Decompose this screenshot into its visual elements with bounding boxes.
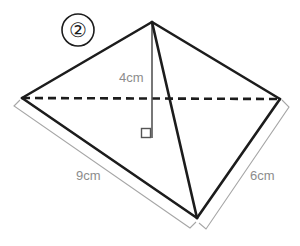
dimension-bracket-9cm bbox=[14, 100, 196, 228]
hidden-base-edge-dashed bbox=[22, 98, 280, 99]
base-dimension-label: 9cm bbox=[76, 169, 101, 183]
right-angle-marker bbox=[142, 129, 151, 138]
edge-apex-front bbox=[152, 22, 197, 218]
item-number-label: ② bbox=[61, 13, 95, 47]
item-number-badge: ② bbox=[61, 13, 95, 47]
edge-apex-right bbox=[152, 22, 280, 99]
edge-right-front bbox=[197, 99, 280, 218]
geometry-figure: ② 4cm 9cm 6cm bbox=[0, 0, 300, 246]
edge-left-front bbox=[22, 98, 197, 218]
height-dimension-label: 4cm bbox=[119, 71, 144, 85]
bracket-path-6cm bbox=[199, 100, 289, 229]
bracket-path-9cm bbox=[14, 100, 196, 228]
dimension-bracket-6cm bbox=[199, 100, 289, 229]
pyramid-diagram-svg bbox=[0, 0, 300, 246]
slant-dimension-label: 6cm bbox=[250, 169, 275, 183]
pyramid-solid-edges bbox=[22, 22, 280, 218]
